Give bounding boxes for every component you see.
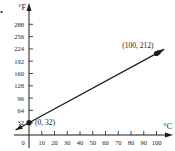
y-tick-label: 160 xyxy=(14,70,24,77)
x-tick-label: 20 xyxy=(51,139,58,146)
x-tick-label: 40 xyxy=(77,139,84,146)
x-tick-label: 80 xyxy=(128,139,135,146)
y-tick-label: 64 xyxy=(18,107,25,114)
y-tick-label: 224 xyxy=(14,45,25,52)
celsius-fahrenheit-chart: °F°C 32649612816019222425628801020304050… xyxy=(0,0,175,151)
annotations: (0, 32)(100, 212) xyxy=(35,41,154,127)
x-tick-label: 10 xyxy=(39,139,46,146)
y-tick-label: 192 xyxy=(14,58,24,65)
y-axis-label: °F xyxy=(18,3,26,12)
x-axis-label: °C xyxy=(163,122,172,131)
y-tick-label: 288 xyxy=(14,21,24,28)
y-tick-label: 256 xyxy=(14,33,25,40)
x-tick-label: 70 xyxy=(115,139,122,146)
point-label-0-32: (0, 32) xyxy=(35,118,55,127)
x-tick-label: 0 xyxy=(21,139,24,146)
y-tick-label: 96 xyxy=(18,95,25,102)
x-tick-label: 50 xyxy=(90,139,97,146)
data-point xyxy=(154,51,159,56)
x-axis-arrow-icon xyxy=(165,133,173,138)
y-axis-arrow-icon xyxy=(27,3,32,11)
x-tick-label: 60 xyxy=(102,139,109,146)
x-tick-label: 90 xyxy=(141,139,148,146)
y-tick-label: 128 xyxy=(14,82,24,89)
x-tick-label: 100 xyxy=(152,139,162,146)
data-point xyxy=(26,120,31,125)
point-label-100-212: (100, 212) xyxy=(122,41,154,50)
x-tick-label: 30 xyxy=(64,139,71,146)
